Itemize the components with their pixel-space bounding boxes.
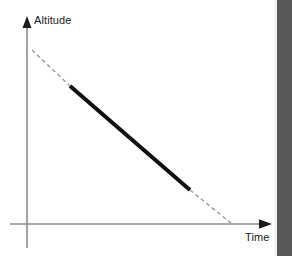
altitude-vs-time-figure: Altitude Time [0,0,292,256]
scan-edge-shadow [277,0,292,256]
descent-line-dashed-lower [190,190,232,224]
right-arrow-icon [259,219,272,229]
x-axis-label: Time [245,231,269,244]
y-axis-label: Altitude [34,14,72,27]
up-arrow-icon [23,16,32,28]
descent-line-solid [70,86,190,190]
chart-canvas [0,0,292,256]
descent-line-dashed-upper [32,50,70,86]
